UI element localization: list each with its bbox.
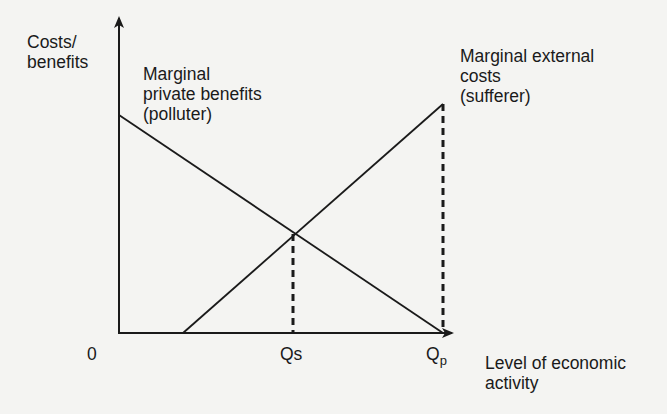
marginal-external-costs-line [183,104,443,333]
qp-label: Qp [426,344,447,366]
mec-label: Marginal external costs (sufferer) [460,46,594,106]
origin-label: 0 [87,344,97,364]
qp-label-main: Q [426,344,440,364]
y-axis-label: Costs/ benefits [27,32,88,72]
qp-label-subscript: p [440,353,447,368]
x-axis-label: Level of economic activity [485,353,626,393]
qs-label: Qs [280,344,302,364]
mpb-label: Marginal private benefits (polluter) [143,64,262,124]
